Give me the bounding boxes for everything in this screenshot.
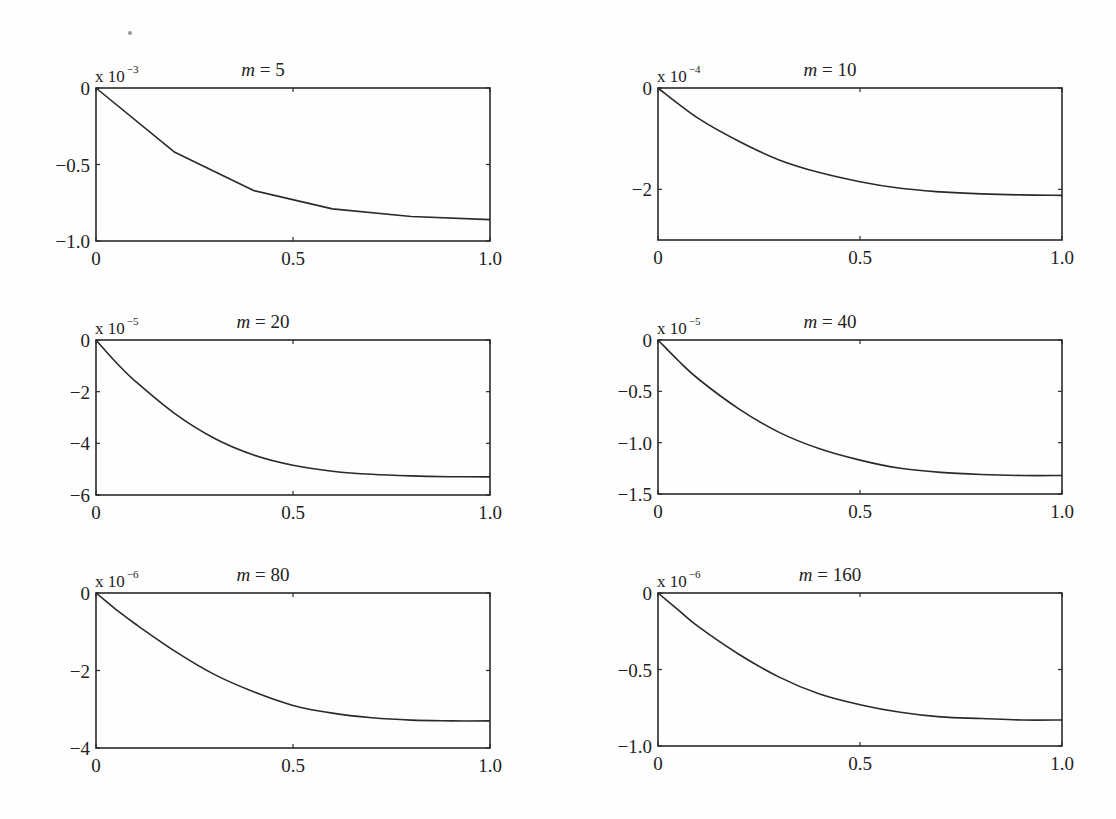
subplot-m-5: 00.51.00−0.5−1.0x 10−3m = 5 bbox=[56, 59, 502, 269]
x-tick-label: 0.5 bbox=[848, 753, 872, 774]
x-tick-label: 0 bbox=[653, 753, 663, 774]
axes-box bbox=[96, 593, 490, 748]
subplot-title: m = 10 bbox=[804, 59, 857, 80]
y-tick-label: −1.0 bbox=[618, 736, 652, 757]
x-tick-label: 0 bbox=[653, 247, 663, 268]
data-line bbox=[96, 88, 490, 220]
subplot-grid: 00.51.00−0.5−1.0x 10−3m = 500.51.00−2x 1… bbox=[0, 0, 1116, 819]
data-line bbox=[658, 593, 1062, 720]
y-tick-label: −1.0 bbox=[618, 433, 652, 454]
subplot-m-10: 00.51.00−2x 10−4m = 10 bbox=[632, 59, 1074, 268]
y-scale-multiplier: x 10−5 bbox=[657, 315, 701, 338]
x-tick-label: 1.0 bbox=[478, 502, 502, 523]
axes-box bbox=[96, 340, 490, 495]
y-tick-label: −0.5 bbox=[56, 155, 90, 176]
subplot-title: m = 40 bbox=[804, 311, 857, 332]
figure-page: 00.51.00−0.5−1.0x 10−3m = 500.51.00−2x 1… bbox=[0, 0, 1116, 819]
axes-box bbox=[658, 593, 1062, 746]
y-scale-multiplier: x 10−6 bbox=[657, 568, 701, 591]
y-tick-label: 0 bbox=[81, 583, 91, 604]
y-scale-multiplier: x 10−3 bbox=[95, 63, 139, 86]
subplot-title: m = 160 bbox=[799, 564, 861, 585]
subplot-title: m = 80 bbox=[237, 564, 290, 585]
subplot-m-20: 00.51.00−2−4−6x 10−5m = 20 bbox=[70, 311, 502, 523]
x-tick-label: 0 bbox=[91, 248, 101, 269]
data-line bbox=[96, 340, 490, 477]
y-scale-multiplier: x 10−6 bbox=[95, 568, 139, 591]
y-tick-label: 0 bbox=[643, 330, 653, 351]
y-tick-label: −0.5 bbox=[618, 381, 652, 402]
y-tick-label: −1.0 bbox=[56, 231, 90, 252]
subplot-title: m = 5 bbox=[241, 59, 284, 80]
x-tick-label: 0 bbox=[91, 755, 101, 776]
x-tick-label: 1.0 bbox=[1050, 501, 1074, 522]
subplot-m-80: 00.51.00−2−4x 10−6m = 80 bbox=[70, 564, 502, 776]
data-line bbox=[96, 593, 490, 721]
x-tick-label: 0.5 bbox=[848, 247, 872, 268]
y-tick-label: 0 bbox=[643, 78, 653, 99]
x-tick-label: 1.0 bbox=[1050, 247, 1074, 268]
y-tick-label: −2 bbox=[632, 179, 652, 200]
x-tick-label: 0.5 bbox=[281, 755, 305, 776]
data-line bbox=[658, 88, 1062, 195]
data-line bbox=[658, 340, 1062, 476]
x-tick-label: 1.0 bbox=[1050, 753, 1074, 774]
subplot-m-40: 00.51.00−0.5−1.0−1.5x 10−5m = 40 bbox=[618, 311, 1074, 522]
y-tick-label: −6 bbox=[70, 485, 90, 506]
y-tick-label: 0 bbox=[643, 583, 653, 604]
x-tick-label: 0 bbox=[653, 501, 663, 522]
y-tick-label: −1.5 bbox=[618, 484, 652, 505]
y-tick-label: −0.5 bbox=[618, 660, 652, 681]
axes-box bbox=[658, 88, 1062, 240]
x-tick-label: 0 bbox=[91, 502, 101, 523]
y-tick-label: −2 bbox=[70, 382, 90, 403]
x-tick-label: 1.0 bbox=[478, 248, 502, 269]
x-tick-label: 0.5 bbox=[848, 501, 872, 522]
subplot-m-160: 00.51.00−0.5−1.0x 10−6m = 160 bbox=[618, 564, 1074, 774]
x-tick-label: 1.0 bbox=[478, 755, 502, 776]
x-tick-label: 0.5 bbox=[281, 502, 305, 523]
y-tick-label: −2 bbox=[70, 661, 90, 682]
subplot-title: m = 20 bbox=[237, 311, 290, 332]
y-tick-label: −4 bbox=[70, 433, 91, 454]
y-tick-label: 0 bbox=[81, 330, 91, 351]
x-tick-label: 0.5 bbox=[281, 248, 305, 269]
y-tick-label: −4 bbox=[70, 738, 91, 759]
axes-box bbox=[658, 340, 1062, 494]
y-scale-multiplier: x 10−5 bbox=[95, 315, 139, 338]
y-scale-multiplier: x 10−4 bbox=[657, 63, 701, 86]
y-tick-label: 0 bbox=[81, 78, 91, 99]
